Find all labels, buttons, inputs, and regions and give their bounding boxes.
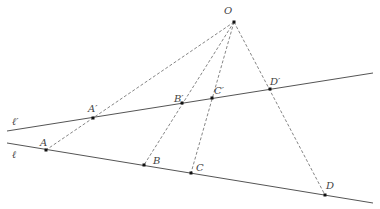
point-C xyxy=(190,172,193,175)
point-A xyxy=(45,149,48,152)
point-label-D-prime: D′ xyxy=(269,76,281,87)
point-C-prime xyxy=(211,97,214,100)
point-label-C: C xyxy=(196,162,204,173)
ray-O-A xyxy=(46,22,234,150)
points-layer xyxy=(45,21,327,197)
point-label-C-prime: C′ xyxy=(214,85,225,96)
line-l-prime xyxy=(7,73,373,131)
point-A-prime xyxy=(92,117,95,120)
ray-O-D xyxy=(234,22,325,195)
point-label-D: D xyxy=(325,180,334,191)
line-label-l-prime: ℓ′ xyxy=(12,116,19,127)
point-label-B-prime: B′ xyxy=(173,93,184,104)
point-B xyxy=(143,164,146,167)
point-D xyxy=(324,194,327,197)
point-D-prime xyxy=(269,88,272,91)
point-label-A-prime: A′ xyxy=(87,103,98,114)
point-label-A: A xyxy=(39,137,47,148)
point-label-O: O xyxy=(224,5,232,16)
lines-layer xyxy=(7,73,373,203)
projection-diagram: ℓ′ℓOA′B′C′D′ABCD xyxy=(0,0,380,209)
point-O xyxy=(233,21,236,24)
point-label-B: B xyxy=(152,155,160,166)
labels-layer: ℓ′ℓOA′B′C′D′ABCD xyxy=(12,5,334,191)
line-label-l: ℓ xyxy=(12,149,16,160)
